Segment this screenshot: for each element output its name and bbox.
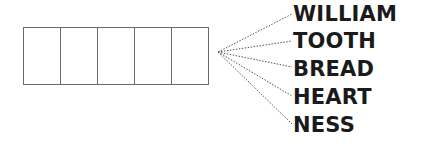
connector-line-3 bbox=[218, 52, 292, 67]
connector-line-5 bbox=[218, 52, 292, 124]
word-2: TOOTH bbox=[293, 31, 376, 52]
word-1: WILLIAM bbox=[293, 4, 397, 25]
word-5: NESS bbox=[293, 115, 355, 136]
word-4: HEART bbox=[293, 87, 372, 108]
connector-line-4 bbox=[218, 52, 292, 96]
word-3: BREAD bbox=[293, 59, 374, 80]
